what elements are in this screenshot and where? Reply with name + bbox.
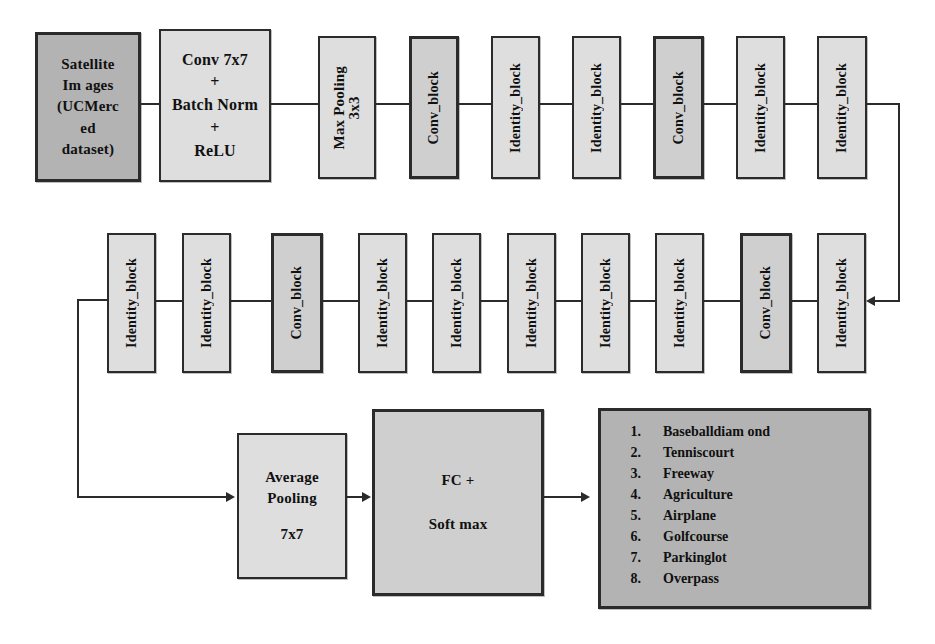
connector-row2-1-2 (156, 300, 182, 302)
row2-block-6-label: Identity_block (525, 258, 539, 348)
row1-block-4: Conv_block (653, 36, 704, 179)
connector-row1-5-6 (785, 103, 817, 105)
connector-row2-3-4 (323, 300, 358, 302)
list-item: Golfcourse (663, 526, 868, 547)
list-item: Parkinglot (663, 547, 868, 568)
arrowhead-into-fc (362, 492, 371, 502)
row2-block-1: Identity_block (107, 233, 156, 373)
connector-row2-5-6 (481, 300, 507, 302)
row2-block-8-label: Identity_block (673, 258, 687, 348)
stem-conv-block: Conv 7x7 + Batch Norm + ReLU (159, 29, 271, 182)
input-dataset-block: Satellite Im ages (UCMerc ed dataset) (35, 32, 141, 182)
avgpool-block: Average Pooling 7x7 (237, 433, 347, 579)
row2-block-10: Identity_block (817, 233, 866, 373)
row2-block-7: Identity_block (581, 233, 630, 373)
connector-row1-1-2 (459, 103, 491, 105)
connector-row2-2-3 (231, 300, 271, 302)
input-line-5: dataset) (62, 139, 114, 160)
row1-block-1: Conv_block (409, 36, 459, 179)
row1-block-5-label: Identity_block (754, 63, 768, 153)
connector-row2-6-7 (556, 300, 581, 302)
row2-block-5-label: Identity_block (450, 258, 464, 348)
row1-block-6-label: Identity_block (835, 63, 849, 153)
list-item: Airplane (663, 505, 868, 526)
connector-stem-to-maxpool (271, 103, 318, 105)
row2-block-6: Identity_block (507, 233, 556, 373)
connector-row1-wrap-down (898, 103, 900, 301)
row2-block-9-label: Conv_block (759, 266, 773, 340)
row2-block-3-label: Conv_block (290, 266, 304, 340)
row1-block-2: Identity_block (491, 36, 540, 179)
maxpool-label: Max Pooling 3x3 (332, 66, 362, 149)
list-item: Baseballdiam ond (663, 421, 868, 442)
stem-line-1: Conv 7x7 (182, 49, 248, 72)
row2-block-5: Identity_block (432, 233, 481, 373)
list-item: Overpass (663, 568, 868, 589)
row2-block-4-label: Identity_block (376, 258, 390, 348)
connector-row2-wrap-in (77, 496, 227, 498)
avgpool-line-3: 7x7 (280, 524, 303, 545)
avgpool-line-2: Pooling (267, 488, 317, 509)
list-item: Tenniscourt (663, 442, 868, 463)
avgpool-line-1: Average (265, 467, 319, 488)
fc-line-2: Soft max (429, 514, 488, 535)
maxpool-line-2: 3x3 (346, 96, 362, 119)
arrowhead-into-row2 (866, 296, 875, 306)
row1-block-3: Identity_block (572, 36, 621, 179)
stem-line-4: + (210, 117, 219, 140)
row1-block-5: Identity_block (736, 36, 785, 179)
row2-block-2-label: Identity_block (200, 258, 214, 348)
input-line-3: (UCMerc (57, 96, 119, 117)
maxpool-line-1: Max Pooling (331, 66, 347, 149)
connector-fc-to-classes (544, 496, 582, 498)
row2-block-4: Identity_block (358, 233, 407, 373)
connector-row1-4-5 (704, 103, 736, 105)
connector-maxpool-to-stage1 (376, 103, 409, 105)
connector-row2-9-10 (792, 300, 817, 302)
connector-row1-wrap-out (867, 103, 900, 105)
fc-line-1: FC + (441, 470, 474, 491)
arrowhead-into-avgpool (226, 492, 235, 502)
stem-line-3: Batch Norm (172, 94, 258, 117)
arrowhead-into-classes (581, 492, 590, 502)
row2-block-1-label: Identity_block (125, 258, 139, 348)
maxpool-block: Max Pooling 3x3 (318, 36, 376, 179)
row2-block-2: Identity_block (182, 233, 231, 373)
connector-row1-3-4 (621, 103, 653, 105)
stem-line-5: ReLU (194, 140, 236, 163)
connector-avgpool-to-fc (347, 496, 363, 498)
input-line-1: Satellite (61, 54, 114, 75)
input-line-4: ed (80, 118, 95, 139)
stem-line-2: + (210, 71, 219, 94)
connector-row2-8-9 (704, 300, 740, 302)
row1-block-1-label: Conv_block (427, 71, 441, 145)
row1-block-3-label: Identity_block (590, 63, 604, 153)
row2-block-3: Conv_block (271, 233, 323, 373)
connector-row2-7-8 (630, 300, 655, 302)
row2-block-9: Conv_block (740, 233, 792, 373)
connector-row1-wrap-in (875, 300, 900, 302)
list-item: Freeway (663, 463, 868, 484)
list-item: Agriculture (663, 484, 868, 505)
input-line-2: Im ages (63, 75, 114, 96)
connector-row2-4-5 (407, 300, 432, 302)
connector-row1-2-3 (540, 103, 572, 105)
diagram-canvas: Satellite Im ages (UCMerc ed dataset) Co… (0, 0, 935, 644)
fc-softmax-block: FC + Soft max (372, 409, 544, 596)
row1-block-2-label: Identity_block (509, 63, 523, 153)
connector-input-to-stem (141, 103, 159, 105)
row1-block-6: Identity_block (817, 36, 867, 179)
class-list: Baseballdiam ond Tenniscourt Freeway Agr… (601, 421, 868, 589)
connector-row2-wrap-down (77, 299, 79, 498)
row2-block-8: Identity_block (655, 233, 704, 373)
row2-block-10-label: Identity_block (835, 258, 849, 348)
output-classes-box: Baseballdiam ond Tenniscourt Freeway Agr… (598, 408, 871, 609)
row2-block-7-label: Identity_block (599, 258, 613, 348)
row1-block-4-label: Conv_block (672, 71, 686, 145)
connector-row2-wrap-out (77, 299, 107, 301)
